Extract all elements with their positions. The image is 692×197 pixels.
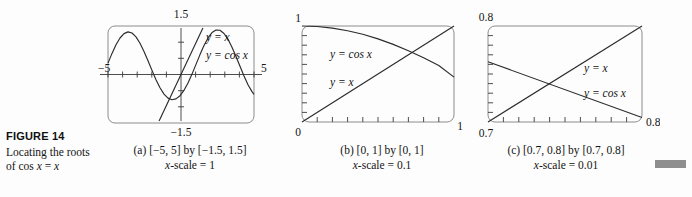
panel-b-curve-cos [302, 26, 454, 77]
panel-c-right-label: 0.8 [646, 116, 660, 128]
panel-c-bottom-label: 0.7 [479, 127, 494, 139]
panel-row: 1.5 −1.5 −5 5 y = x y = cos x (a) [−5, 5… [96, 0, 692, 197]
panel-a: 1.5 −1.5 −5 5 y = x y = cos x (a) [−5, 5… [96, 0, 284, 197]
panel-a-caption: (a) [−5, 5] by [−1.5, 1.5] x-scale = 1 [96, 143, 284, 173]
panel-c-x-ticks [503, 117, 626, 122]
panel-c-curve-line [488, 26, 642, 122]
figure-14-root: FIGURE 14 Locating the roots of cos x = … [0, 0, 692, 197]
panel-a-left-label: −5 [98, 62, 110, 74]
panel-b-bottom-label: 0 [295, 126, 301, 138]
panel-a-right-label: 5 [261, 62, 267, 74]
panel-c-caption-line-1: (c) [0.7, 0.8] by [0.7, 0.8] [507, 144, 624, 156]
scan-artifact-mark [655, 160, 686, 168]
panel-a-caption-line-1: (a) [−5, 5] by [−1.5, 1.5] [134, 144, 247, 156]
figure-desc-var-x: x [37, 160, 42, 172]
panel-c-caption-rest: -scale = 0.01 [539, 159, 598, 171]
panel-c-caption: (c) [0.7, 0.8] by [0.7, 0.8] x-scale = 0… [472, 143, 660, 173]
panel-b-label-y-equals-x: y = x [329, 76, 355, 89]
panel-b-right-label: 1 [457, 120, 463, 132]
panel-a-bottom-label: −1.5 [171, 126, 192, 138]
panel-b: 1 0 1 y = cos x y = x (b) [0, 1] by [0, … [288, 0, 476, 197]
panel-c-plot: 0.8 0.7 0.8 y = x y = cos x [472, 0, 660, 140]
panel-c-y-ticks [488, 36, 493, 113]
panel-a-top-label: 1.5 [174, 8, 189, 20]
panel-c-caption-line-2: x-scale = 0.01 [472, 158, 660, 173]
panel-a-caption-line-2: x-scale = 1 [96, 158, 284, 173]
panel-a-caption-rest: -scale = 1 [170, 159, 215, 171]
panel-b-caption-rest: -scale = 0.1 [358, 159, 411, 171]
panel-b-label-y-equals-cos-x: y = cos x [329, 48, 373, 61]
panel-b-caption-line-2: x-scale = 0.1 [288, 158, 476, 173]
panel-c: 0.8 0.7 0.8 y = x y = cos x (c) [0.7, 0.… [472, 0, 660, 197]
panel-b-top-label: 1 [295, 12, 301, 24]
figure-desc-var-x2: x [54, 160, 59, 172]
panel-c-label-y-equals-cos-x: y = cos x [583, 87, 627, 100]
panel-b-caption-line-1: (b) [0, 1] by [0, 1] [340, 144, 423, 156]
panel-a-plot: 1.5 −1.5 −5 5 y = x y = cos x [96, 0, 284, 140]
panel-a-label-y-equals-x: y = x [205, 31, 231, 44]
panel-c-top-label: 0.8 [479, 11, 494, 23]
panel-a-label-y-equals-cos-x: y = cos x [205, 49, 249, 62]
panel-b-caption: (b) [0, 1] by [0, 1] x-scale = 0.1 [288, 143, 476, 173]
panel-b-y-ticks [302, 36, 307, 113]
panel-b-plot: 1 0 1 y = cos x y = x [288, 0, 476, 140]
panel-b-x-ticks [317, 117, 439, 122]
panel-b-curve-line [302, 26, 454, 122]
panel-c-label-y-equals-x: y = x [583, 62, 609, 75]
